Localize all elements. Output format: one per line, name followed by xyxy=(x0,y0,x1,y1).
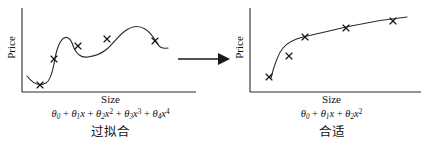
goodfit-data-markers xyxy=(266,18,396,80)
overfit-caption: 过拟合 xyxy=(0,124,221,139)
goodfit-plot xyxy=(221,0,442,100)
formula-term-0: θ0 xyxy=(301,108,310,119)
data-marker xyxy=(286,53,292,59)
overfit-curve xyxy=(27,27,168,85)
formula-plus: + xyxy=(88,108,94,119)
y-axis-label: Price xyxy=(234,22,245,74)
goodfit-formula: θ0 + θ1x + θ2x2 xyxy=(221,106,442,124)
formula-term-2: θ2x2 xyxy=(96,108,113,119)
y-axis-label: Price xyxy=(6,22,17,74)
formula-term-2: θ2x2 xyxy=(345,108,362,119)
formula-term-3: θ3x3 xyxy=(124,108,141,119)
formula-plus: + xyxy=(337,108,343,119)
goodfit-ylabel-wrap: Price xyxy=(228,28,250,80)
panel-goodfit: Price Size θ0 + θ1x + θ2x2 合适 xyxy=(221,0,442,150)
formula-plus: + xyxy=(63,108,69,119)
overfit-data-markers xyxy=(37,36,158,88)
overfit-formula: θ0 + θ1x + θ2x2 + θ3x3 + θ4x4 xyxy=(0,106,221,124)
x-axis-label: Size xyxy=(221,93,442,105)
formula-plus: + xyxy=(312,108,318,119)
overfit-ylabel-wrap: Price xyxy=(0,28,22,80)
goodfit-curve xyxy=(271,17,407,78)
goodfit-caption: 合适 xyxy=(221,124,442,139)
panel-overfit: Price Size θ0 + θ1x + θ2x2 + θ3x3 + θ4x4… xyxy=(0,0,221,150)
data-marker xyxy=(75,43,81,49)
data-marker xyxy=(104,36,110,42)
formula-plus: + xyxy=(144,108,150,119)
formula-plus: + xyxy=(116,108,122,119)
formula-term-4: θ4x4 xyxy=(152,108,169,119)
x-axis-label: Size xyxy=(0,93,221,105)
formula-term-0: θ0 xyxy=(52,108,61,119)
data-marker xyxy=(37,82,43,88)
formula-term-1: θ1x xyxy=(71,108,84,119)
figure-container: Price Size θ0 + θ1x + θ2x2 + θ3x3 + θ4x4… xyxy=(0,0,442,150)
formula-term-1: θ1x xyxy=(321,108,334,119)
